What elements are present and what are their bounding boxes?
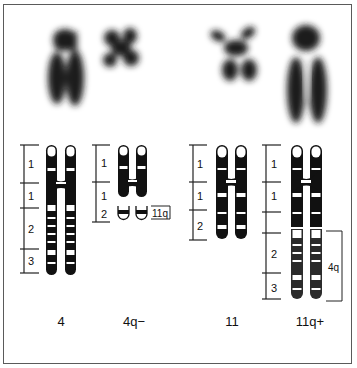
region-label: 1 <box>28 158 34 170</box>
region-label: 1 <box>101 190 107 202</box>
micrograph-chromosome-4q-minus <box>103 28 139 67</box>
region-label: 2 <box>28 223 34 235</box>
micrograph-chromosome-4 <box>48 29 84 106</box>
region-label: 1 <box>28 190 34 202</box>
ideogram-chromosome-4: 1 1 2 3 <box>20 145 76 275</box>
bracket-label-11q: 11q <box>152 208 168 219</box>
region-label: 2 <box>197 220 203 232</box>
region-label: 1 <box>197 158 203 170</box>
label-chromosome-11q-plus: 11q+ <box>285 314 335 329</box>
ideogram-chromosome-11: 1 1 2 <box>189 145 247 240</box>
region-label: 1 <box>101 157 107 169</box>
region-label: 2 <box>101 208 107 220</box>
region-label: 1 <box>197 190 203 202</box>
region-label: 1 <box>271 190 277 202</box>
label-chromosome-11: 11 <box>207 314 257 329</box>
micrograph-chromosome-11 <box>209 24 258 81</box>
micrograph-gap <box>304 58 310 102</box>
bracket-label-4q: 4q <box>328 262 339 273</box>
region-label: 3 <box>28 255 34 267</box>
label-chromosome-4: 4 <box>36 314 86 329</box>
label-chromosome-4q-minus: 4q− <box>109 314 159 329</box>
karyotype-diagram: 1 1 2 3 <box>0 0 357 368</box>
region-label: 3 <box>271 282 277 294</box>
region-label: 1 <box>271 158 277 170</box>
ideogram-chromosome-4q-minus: 11q 1 1 2 <box>92 145 170 222</box>
ideogram-chromosome-11q-plus: 4q 1 1 2 3 <box>262 145 342 301</box>
region-label: 2 <box>271 248 277 260</box>
